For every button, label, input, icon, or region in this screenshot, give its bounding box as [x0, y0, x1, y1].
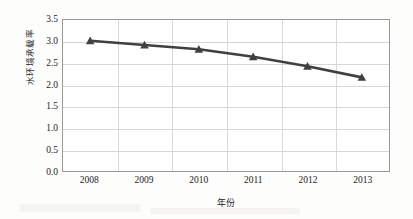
x-axis-title: 年份	[62, 196, 390, 209]
x-axis-tick-label: 2012	[285, 175, 331, 185]
y-axis-tick-label: 2.0	[30, 80, 58, 90]
plot-area	[62, 19, 390, 172]
y-axis-tick-label: 0.0	[30, 167, 58, 177]
y-axis-tick-label: 3.5	[30, 14, 58, 24]
y-axis-tick-label: 1.0	[30, 123, 58, 133]
y-axis-tick-label: 0.5	[30, 145, 58, 155]
series-line	[90, 41, 362, 78]
x-axis-tick-label: 2013	[340, 175, 386, 185]
line-chart-figure: 水环境承载率 0.00.51.01.52.02.53.03.5 20082009…	[0, 0, 413, 219]
x-axis-tick-label: 2010	[176, 175, 222, 185]
y-axis-tick-labels: 0.00.51.01.52.02.53.03.5	[30, 19, 58, 172]
x-axis-tick-labels: 200820092010201120122013	[62, 175, 390, 189]
x-axis-tick-label: 2008	[66, 175, 112, 185]
data-series-svg	[63, 20, 389, 171]
x-axis-tick-label: 2011	[230, 175, 276, 185]
x-axis-tick-label: 2009	[121, 175, 167, 185]
y-axis-tick-label: 2.5	[30, 58, 58, 68]
y-axis-tick-label: 1.5	[30, 101, 58, 111]
y-axis-tick-label: 3.0	[30, 36, 58, 46]
